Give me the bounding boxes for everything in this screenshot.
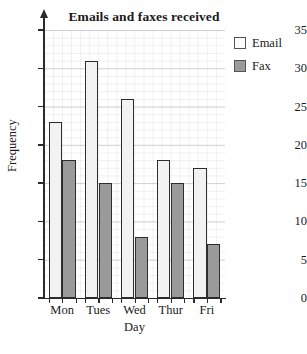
legend-item-fax: Fax	[234, 59, 304, 73]
y-tick-label: 15	[273, 177, 307, 189]
legend: EmailFax	[234, 36, 304, 82]
y-tick-label: 35	[273, 24, 307, 36]
plot-area	[44, 30, 225, 298]
bar-tues-email	[85, 61, 98, 298]
y-tick	[38, 182, 44, 183]
bar-tues-fax	[99, 183, 112, 298]
bar-chart-figure: Emails and faxes received 05101520253035…	[0, 0, 307, 354]
bar-thur-fax	[171, 183, 184, 298]
bar-fri-fax	[207, 244, 220, 298]
y-axis-label: Frequency	[5, 86, 20, 206]
y-tick-label: 25	[273, 101, 307, 113]
bar-mon-fax	[62, 160, 75, 298]
y-axis-line	[43, 16, 45, 299]
y-tick	[38, 221, 44, 222]
legend-swatch-fax	[234, 60, 246, 72]
y-tick-label: 20	[273, 139, 307, 151]
legend-label-email: Email	[252, 37, 282, 50]
bar-thur-email	[157, 160, 170, 298]
x-axis-label: Day	[44, 320, 225, 335]
y-tick-label: 0	[273, 292, 307, 304]
y-axis-arrow-icon	[40, 9, 48, 18]
x-tick-label-fri: Fri	[183, 303, 231, 318]
bar-wed-fax	[135, 237, 148, 298]
y-tick	[38, 144, 44, 145]
y-tick-label: 5	[273, 254, 307, 266]
y-tick	[38, 259, 44, 260]
y-tick	[38, 29, 44, 30]
bar-mon-email	[49, 122, 62, 298]
chart-title: Emails and faxes received	[56, 9, 232, 25]
y-tick	[38, 68, 44, 69]
legend-swatch-email	[234, 37, 246, 49]
bar-wed-email	[121, 99, 134, 298]
legend-item-email: Email	[234, 36, 304, 50]
y-tick	[38, 297, 44, 298]
y-tick-label: 10	[273, 215, 307, 227]
bar-fri-email	[193, 168, 206, 298]
y-tick	[38, 106, 44, 107]
legend-label-fax: Fax	[252, 60, 271, 73]
